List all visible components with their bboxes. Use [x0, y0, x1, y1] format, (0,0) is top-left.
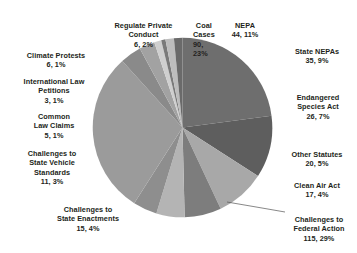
- slice-label-state-vehicle-standards: Challenges to State Vehicle Standards 11…: [6, 140, 98, 195]
- slice-label-value: 90, 23%: [193, 40, 199, 58]
- slice-label-value: 17, 4%: [280, 190, 354, 199]
- slice-label-value: 11, 3%: [6, 177, 98, 186]
- slice-label-name: Endangered Species Act: [297, 93, 340, 111]
- slice-label-name: Challenges to Federal Action: [293, 215, 344, 233]
- slice-label-name: Common Law Claims: [34, 112, 75, 130]
- slice-label-state-enactments: Challenges to State Enactments 15, 4%: [36, 196, 140, 242]
- slice-label-name: State NEPAs: [295, 47, 339, 56]
- slice-label-name: Challenges to State Vehicle Standards: [28, 149, 77, 176]
- slice-label-name: NEPA: [235, 21, 255, 30]
- slice-label-coal-cases: Coal Cases 90, 23%: [111, 12, 199, 67]
- slice-label-name: Coal Cases: [193, 21, 215, 39]
- slice-label-federal-action: Challenges to Federal Action 115, 29%: [283, 206, 355, 252]
- slice-label-endangered-species-act: Endangered Species Act 26, 7%: [283, 84, 353, 130]
- slice-label-value: 115, 29%: [283, 234, 355, 243]
- slice-label-name: Other Statutes: [292, 150, 343, 159]
- slice-label-value: 15, 4%: [36, 224, 140, 233]
- slice-label-value: 20, 5%: [278, 159, 356, 168]
- slice-label-value: 35, 9%: [280, 56, 354, 65]
- slice-label-clean-air-act: Clean Air Act 17, 4%: [280, 172, 354, 209]
- slice-label-value: 5, 1%: [8, 131, 100, 140]
- slice-label-name: International Law Petitions: [24, 77, 85, 95]
- slice-label-state-nepas: State NEPAs 35, 9%: [280, 38, 354, 75]
- slice-label-nepa: NEPA 44, 11%: [218, 12, 272, 49]
- slice-label-name: Climate Protests: [27, 51, 85, 60]
- pie-chart-figure: Regulate Private Conduct 6, 2% Coal Case…: [0, 0, 357, 253]
- slice-label-name: Challenges to State Enactments: [57, 205, 119, 223]
- slice-label-value: 44, 11%: [218, 30, 272, 39]
- slice-label-name: Clean Air Act: [294, 181, 340, 190]
- slice-label-value: 26, 7%: [283, 112, 353, 121]
